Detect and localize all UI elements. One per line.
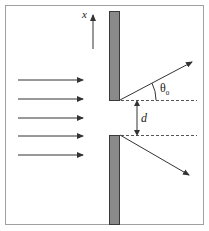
axis-label-x: x xyxy=(81,8,87,20)
frame xyxy=(6,6,204,225)
diagram-canvas: x θ0 d xyxy=(0,0,209,231)
separation-label: d xyxy=(141,111,148,125)
lower-wall xyxy=(110,136,120,225)
upper-wall xyxy=(110,12,120,101)
